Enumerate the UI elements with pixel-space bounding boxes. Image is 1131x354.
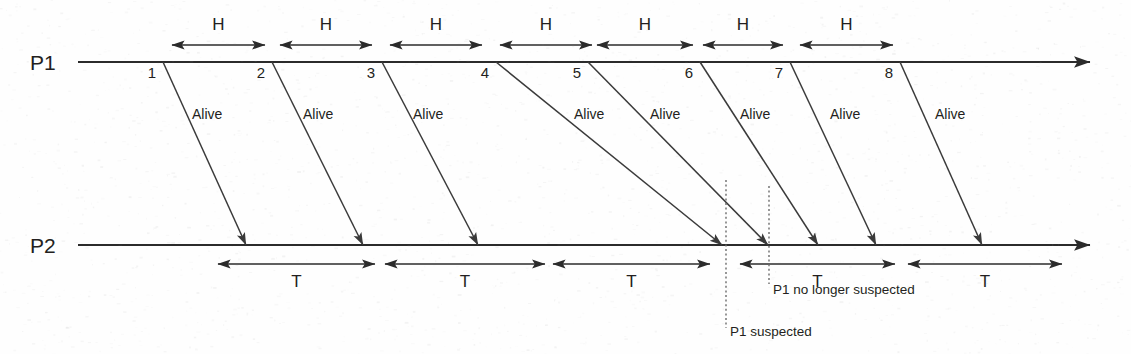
h-interval-2: H	[280, 15, 372, 45]
send-event-number-4: 4	[481, 64, 489, 81]
h-interval-7: H	[800, 15, 893, 45]
t-interval-2: T	[385, 264, 545, 291]
t-interval-label: T	[626, 272, 636, 291]
alive-message-arrow	[163, 62, 246, 245]
h-interval-5: H	[597, 15, 693, 45]
send-event-number-5: 5	[573, 64, 581, 81]
annotations-group: P1 suspectedP1 no longer suspected	[726, 180, 915, 339]
lifeline-label-p1: P1	[30, 51, 56, 74]
alive-message-label: Alive	[192, 106, 223, 122]
alive-message-arrow	[588, 62, 768, 245]
h-interval-6: H	[703, 15, 783, 45]
alive-message-arrow	[700, 62, 818, 245]
h-interval-3: H	[390, 15, 482, 45]
alive-message-label: Alive	[303, 106, 334, 122]
h-intervals-group: HHHHHHH	[172, 15, 893, 45]
send-event-number-8: 8	[885, 64, 893, 81]
h-interval-label: H	[430, 15, 442, 34]
alive-message-4: Alive	[496, 62, 722, 245]
t-interval-1: T	[218, 264, 375, 291]
h-interval-4: H	[500, 15, 592, 45]
alive-message-3: Alive	[382, 62, 478, 245]
t-interval-label: T	[460, 272, 470, 291]
send-event-numbers-group: 12345678	[148, 64, 893, 81]
lifeline-label-p2: P2	[30, 234, 56, 257]
alive-message-label: Alive	[574, 106, 605, 122]
alive-message-8: Alive	[900, 62, 982, 245]
alive-message-arrow	[900, 62, 982, 245]
alive-message-1: Alive	[163, 62, 246, 245]
alive-message-label: Alive	[935, 106, 966, 122]
alive-message-arrow	[382, 62, 478, 245]
h-interval-label: H	[737, 15, 749, 34]
alive-message-arrow	[790, 62, 876, 245]
diagram-canvas: P1 P2 HHHHHHH AliveAliveAliveAliveAliveA…	[0, 0, 1131, 354]
alive-message-7: Alive	[790, 62, 876, 245]
alive-message-label: Alive	[650, 106, 681, 122]
alive-message-label: Alive	[830, 106, 861, 122]
lifeline-p2-group: P2	[30, 234, 1090, 257]
send-event-number-7: 7	[775, 64, 783, 81]
alive-message-label: Alive	[740, 106, 771, 122]
t-interval-label: T	[291, 272, 301, 291]
annotation-text: P1 no longer suspected	[773, 282, 915, 297]
h-interval-label: H	[212, 15, 224, 34]
send-event-number-2: 2	[257, 64, 265, 81]
alive-message-6: Alive	[700, 62, 818, 245]
t-interval-label: T	[980, 272, 990, 291]
annotation-p1-suspected: P1 suspected	[726, 180, 812, 339]
h-interval-label: H	[840, 15, 852, 34]
h-interval-1: H	[172, 15, 265, 45]
alive-message-5: Alive	[588, 62, 768, 245]
send-event-number-3: 3	[367, 64, 375, 81]
alive-message-arrow	[496, 62, 722, 245]
annotation-text: P1 suspected	[730, 324, 812, 339]
alive-messages-group: AliveAliveAliveAliveAliveAliveAliveAlive	[163, 62, 982, 245]
t-interval-5: T	[908, 264, 1062, 291]
alive-message-arrow	[272, 62, 363, 245]
h-interval-label: H	[639, 15, 651, 34]
t-intervals-group: TTTTT	[218, 264, 1062, 291]
h-interval-label: H	[540, 15, 552, 34]
lifeline-p1-group: P1	[30, 51, 1090, 74]
timing-diagram: P1 P2 HHHHHHH AliveAliveAliveAliveAliveA…	[0, 0, 1131, 354]
h-interval-label: H	[320, 15, 332, 34]
send-event-number-1: 1	[148, 64, 156, 81]
alive-message-2: Alive	[272, 62, 363, 245]
send-event-number-6: 6	[685, 64, 693, 81]
alive-message-label: Alive	[413, 106, 444, 122]
t-interval-3: T	[553, 264, 710, 291]
